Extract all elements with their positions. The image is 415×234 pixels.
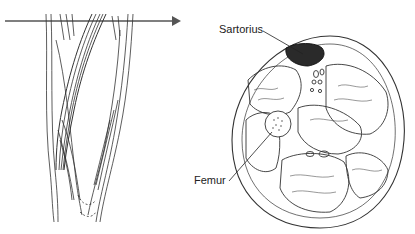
sartorius-muscle	[286, 44, 324, 67]
femur-bone	[265, 111, 291, 137]
illustration	[0, 0, 415, 234]
sartorius-label: Sartorius	[219, 23, 263, 35]
thigh-cross-section	[229, 31, 404, 228]
femur-label: Femur	[194, 174, 226, 186]
thigh-anterior-view	[46, 14, 133, 222]
femur-leader-line	[229, 132, 272, 181]
